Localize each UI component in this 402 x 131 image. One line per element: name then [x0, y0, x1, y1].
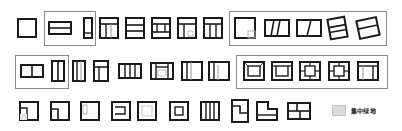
plan-icon-comb	[203, 17, 223, 39]
plan-icon-side-bars-b	[208, 61, 230, 81]
plan-icon-four-cells	[287, 102, 311, 120]
plan-icon-c-shape	[111, 101, 131, 121]
plan-icon-vertical-l	[93, 60, 109, 82]
legend-label: 集中绿地	[351, 106, 376, 115]
plan-icon-courtyard-e	[357, 61, 379, 81]
legend-swatch-green-space	[332, 105, 346, 116]
plan-icon-z-shape	[231, 99, 249, 123]
plan-icon-rotated-slab-a	[326, 15, 350, 41]
plan-icon-corner-l-b	[50, 101, 70, 121]
plan-icon-square-greenfill	[137, 101, 157, 121]
plan-icon-notched	[256, 101, 278, 121]
plan-icon-vertical-strips	[200, 101, 220, 121]
plan-icon-u-court	[151, 17, 171, 39]
plan-icon-vertical-bars-b	[72, 60, 86, 82]
plan-icon-h-court	[150, 62, 174, 80]
plan-icon-double-vertical	[51, 60, 65, 82]
plan-icon-horizontal-slab	[48, 21, 72, 35]
plan-icon-square-greenside	[80, 101, 100, 121]
legend: 集中绿地	[332, 105, 376, 116]
plan-icon-t-split	[99, 17, 119, 39]
plan-icon-vertical-slab	[83, 17, 93, 39]
plan-icon-courtyard-b	[271, 61, 293, 81]
plan-icon-rotated-slab-b	[355, 15, 381, 41]
plan-icon-two-bars	[125, 17, 145, 39]
plan-icon-l-court	[177, 17, 197, 39]
plan-icon-parallelogram-triple	[264, 19, 290, 37]
plan-icon-nested-square	[169, 101, 189, 121]
plan-icon-corner-l-a	[19, 101, 39, 121]
plan-icon-side-bars-a	[181, 61, 203, 81]
plan-icon-horizontal-comb	[118, 63, 142, 79]
plan-icon-courtyard-c	[299, 61, 321, 81]
plan-icon-courtyard-a	[243, 61, 265, 81]
plan-icon-square-empty	[17, 18, 37, 38]
plan-icon-parallelogram-split	[296, 19, 322, 37]
plan-icon-square-greencorner	[234, 17, 256, 39]
plan-icon-courtyard-d	[328, 61, 350, 81]
plan-icon-double-horizontal	[20, 64, 44, 78]
